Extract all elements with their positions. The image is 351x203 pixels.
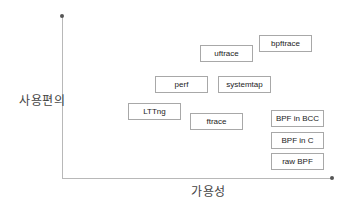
x-axis-arrow-icon bbox=[330, 176, 334, 180]
tool-box-bpf-in-c: BPF in C bbox=[271, 132, 324, 149]
tool-box-bpf-in-bcc: BPF in BCC bbox=[271, 110, 324, 127]
tool-box-perf: perf bbox=[155, 76, 208, 93]
tool-box-uftrace: uftrace bbox=[200, 45, 253, 62]
y-axis-arrow-icon bbox=[60, 14, 64, 18]
tool-box-ftrace: ftrace bbox=[190, 113, 243, 130]
tool-box-systemtap: systemtap bbox=[218, 76, 271, 93]
x-axis bbox=[62, 178, 332, 179]
x-axis-label: 가용성 bbox=[191, 182, 226, 199]
tool-box-raw-bpf: raw BPF bbox=[271, 153, 324, 170]
tool-box-bpftrace: bpftrace bbox=[259, 35, 312, 52]
tool-box-lttng: LTTng bbox=[128, 103, 181, 120]
y-axis-label: 사용편의 bbox=[19, 91, 65, 108]
